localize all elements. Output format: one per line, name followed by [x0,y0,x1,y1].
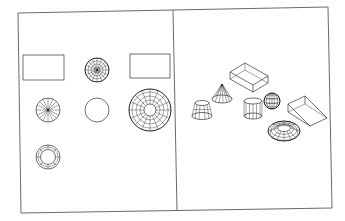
iso-wedge [288,96,327,126]
plan-cone [36,98,60,122]
plan-view-panel [23,54,171,169]
iso-cylinder [244,98,262,119]
drawing-canvas [0,0,345,221]
iso-torus [268,121,300,141]
iso-truncated-cone [192,101,212,120]
plan-truncated-cone [36,145,60,169]
plan-torus [129,89,171,131]
iso-sphere [264,93,280,109]
iso-cone [212,84,232,104]
isometric-view-panel [192,63,327,141]
panel-divider [173,10,177,210]
plan-box [23,55,64,80]
plan-sphere [85,58,109,82]
plan-wedge [130,54,170,78]
wireframe-drawing [0,0,345,221]
plan-cylinder [85,98,109,122]
iso-box [230,63,268,92]
